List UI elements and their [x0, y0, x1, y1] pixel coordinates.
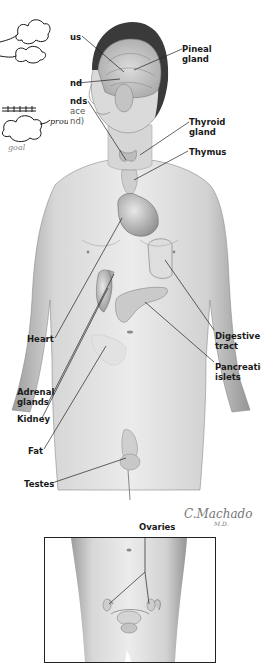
label-thyroid-line1: Thyroid [189, 117, 225, 127]
label-testes: Testes [24, 479, 54, 489]
label-thyroid-gland: Thyroid gland [189, 117, 225, 137]
label-pineal-line2: gland [182, 54, 212, 64]
label-pancreatic-islets: Pancreatic islets [215, 362, 261, 382]
label-heart: Heart [27, 334, 54, 344]
label-adrenal-line2: glands [17, 397, 54, 407]
label-parathyroid-fragment: nds [70, 96, 87, 106]
sketch-word-goal: goal [8, 143, 26, 152]
endocrine-diagram: proud goal us nd nds ace nd) Pineal glan… [0, 0, 261, 663]
label-kidney: Kidney [17, 414, 50, 424]
label-pituitary-fragment: nd [70, 78, 82, 88]
sketch-word-proud: proud [50, 117, 68, 126]
female-pelvis-inset [44, 537, 216, 663]
label-digestive-line2: tract [215, 341, 260, 351]
sketch-overlay: proud goal [0, 0, 68, 160]
label-thyroid-line2: gland [189, 127, 225, 137]
artist-signature: C.Machado [184, 507, 253, 521]
label-ovaries: Ovaries [139, 522, 175, 532]
label-adrenal-line1: Adrenal [17, 387, 54, 397]
label-parathyroid-fragment-3: nd) [70, 116, 84, 126]
female-pelvis-illustration [45, 538, 215, 662]
label-hypothalamus-fragment: us [70, 32, 81, 42]
label-digestive-tract: Digestive tract [215, 331, 260, 351]
label-adrenal-glands: Adrenal glands [17, 387, 54, 407]
artist-signature-suffix: M.D. [214, 520, 229, 527]
label-pineal-gland: Pineal gland [182, 44, 212, 64]
label-pancreatic-line1: Pancreatic [215, 362, 261, 372]
label-fat: Fat [28, 446, 43, 456]
label-thymus: Thymus [189, 147, 226, 157]
cloud-sketch-doodles: proud goal [0, 0, 68, 160]
label-parathyroid-fragment-2: ace [70, 106, 85, 116]
label-pineal-line1: Pineal [182, 44, 212, 54]
label-pancreatic-line2: islets [215, 372, 261, 382]
label-digestive-line1: Digestive [215, 331, 260, 341]
